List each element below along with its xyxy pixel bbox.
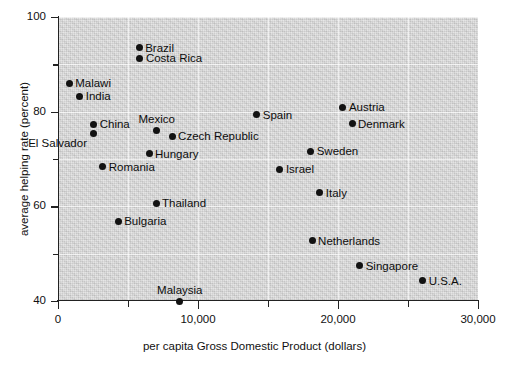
vertical-gridline <box>478 17 479 301</box>
data-point <box>76 93 83 100</box>
horizontal-gridline <box>58 17 478 18</box>
x-axis-title: per capita Gross Domestic Product (dolla… <box>0 340 509 352</box>
data-point <box>349 120 356 127</box>
x-tick-label-10000: 10,000 <box>158 313 238 325</box>
scatter-plot-figure: 406080100010,00020,00030,000 BrazilCosta… <box>0 0 509 366</box>
point-label-italy: Italy <box>326 187 347 199</box>
horizontal-gridline <box>58 64 478 65</box>
data-point <box>90 130 97 137</box>
point-label-mexico: Mexico <box>138 113 174 125</box>
x-axis-tick <box>58 301 59 309</box>
horizontal-gridline <box>58 254 478 255</box>
point-label-spain: Spain <box>263 109 292 121</box>
point-label-thailand: Thailand <box>162 197 206 209</box>
x-axis-minor-tick <box>268 301 269 307</box>
plot-area <box>58 17 478 301</box>
x-axis-tick <box>338 301 339 309</box>
data-point <box>153 127 160 134</box>
point-label-china: China <box>100 118 130 130</box>
data-point <box>66 80 73 87</box>
y-tick-label-40: 40 <box>6 294 46 306</box>
y-axis-minor-tick <box>53 159 59 160</box>
point-label-romania: Romania <box>109 161 155 173</box>
horizontal-gridline <box>58 206 478 207</box>
y-axis-minor-tick <box>53 254 59 255</box>
data-point <box>115 218 122 225</box>
x-axis-tick <box>198 301 199 309</box>
point-label-malaysia: Malaysia <box>157 284 202 296</box>
point-label-czech-republic: Czech Republic <box>178 130 259 142</box>
x-axis-minor-tick <box>128 301 129 307</box>
data-point <box>153 200 160 207</box>
data-point <box>309 237 316 244</box>
x-axis-minor-tick <box>408 301 409 307</box>
point-label-denmark: Denmark <box>358 118 405 130</box>
y-axis-minor-tick <box>53 64 59 65</box>
data-point <box>146 150 153 157</box>
y-tick-label-100: 100 <box>6 10 46 22</box>
y-axis-tick <box>51 17 59 18</box>
data-point <box>176 298 183 305</box>
point-label-singapore: Singapore <box>366 260 418 272</box>
point-label-sweden: Sweden <box>317 145 359 157</box>
point-label-bulgaria: Bulgaria <box>124 215 166 227</box>
point-label-austria: Austria <box>349 101 385 113</box>
y-axis-tick <box>51 112 59 113</box>
point-label-india: India <box>86 90 111 102</box>
point-label-malawi: Malawi <box>75 77 111 89</box>
data-point <box>136 44 143 51</box>
point-label-costa-rica: Costa Rica <box>146 52 202 64</box>
x-axis-tick <box>478 301 479 309</box>
x-tick-label-20000: 20,000 <box>298 313 378 325</box>
data-point <box>169 133 176 140</box>
point-label-hungary: Hungary <box>155 148 198 160</box>
point-label-el-salvador: El Salvador <box>28 137 87 149</box>
y-axis-tick <box>51 206 59 207</box>
point-label-netherlands: Netherlands <box>318 235 380 247</box>
y-axis-title: average helping rate (percent) <box>18 49 30 269</box>
x-tick-label-30000: 30,000 <box>438 313 509 325</box>
x-tick-label-0: 0 <box>18 313 98 325</box>
point-label-u-s-a: U.S.A. <box>429 275 462 287</box>
point-label-israel: Israel <box>286 163 314 175</box>
